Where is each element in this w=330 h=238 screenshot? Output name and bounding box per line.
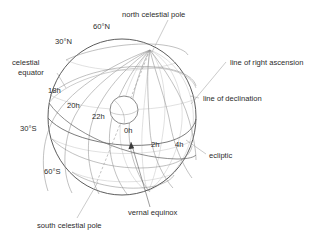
label-line-of-declination: line of declination (203, 94, 262, 103)
celestial-sphere-diagram: north celestial pole celestial equator l… (0, 0, 330, 238)
diagram-labels: north celestial pole celestial equator l… (12, 10, 303, 230)
label-vernal-equinox: vernal equinox (128, 208, 178, 217)
label-ra-22h: 22h (92, 112, 105, 121)
label-declination-60s: 60°S (44, 167, 61, 176)
label-south-celestial-pole: south celestial pole (37, 221, 102, 230)
label-ra-20h: 20h (67, 101, 80, 110)
celestial-sphere-body (43, 39, 196, 195)
leader-lines (57, 20, 226, 218)
label-ra-18h: 18h (48, 86, 61, 95)
label-declination-60n: 60°N (93, 22, 110, 31)
label-celestial-equator-line1: celestial (12, 58, 40, 67)
label-ra-2h: 2h (151, 140, 159, 149)
label-declination-30n: 30°N (55, 37, 72, 46)
label-line-of-right-ascension: line of right ascension (230, 58, 303, 67)
earth-sphere (110, 96, 138, 124)
label-celestial-equator-line2: equator (18, 68, 44, 77)
label-ra-0h: 0h (124, 126, 132, 135)
leader-north-celestial-pole (152, 20, 168, 52)
leader-vernal-equinox (131, 142, 150, 207)
label-declination-30s: 30°S (20, 124, 37, 133)
label-north-celestial-pole: north celestial pole (122, 10, 185, 19)
label-ecliptic: ecliptic (209, 151, 232, 160)
label-ra-4h: 4h (175, 140, 183, 149)
leader-south-celestial-pole (77, 182, 98, 218)
leader-ecliptic (186, 140, 206, 154)
